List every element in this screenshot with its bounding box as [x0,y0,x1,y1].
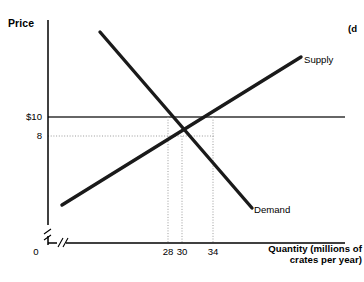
supply-demand-chart: Price $10 8 0 28 30 34 Supply Demand Qua… [0,0,364,282]
quantity-axis-title-line2: crates per year) [290,254,362,265]
quantity-axis-title-line1: Quantity (millions of [268,243,362,254]
y-tick-label-8: 8 [2,130,42,141]
y-tick-label-10: $10 [2,111,42,122]
quantity-axis-title: Quantity (millions ofcrates per year) [240,243,362,266]
cropped-sidenote: (d [348,23,357,34]
supply-curve-label: Supply [304,54,333,65]
chart-canvas [0,0,364,282]
price-axis-title: Price [8,17,34,29]
demand-curve-label: Demand [254,204,290,215]
axes [44,20,345,247]
x-tick-label-30: 30 [170,246,194,257]
x-tick-label-34: 34 [201,246,225,257]
reference-lines [48,117,345,243]
curves [62,32,301,208]
demand-curve [100,32,252,208]
origin-label: 0 [30,246,42,257]
